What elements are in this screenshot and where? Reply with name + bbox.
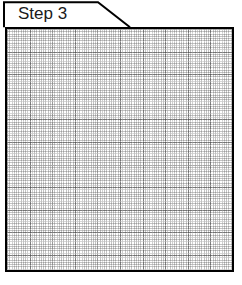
- graph-paper-grid: [7, 29, 232, 270]
- grid-panel-body: [5, 27, 234, 272]
- step-panel: Step 3: [0, 0, 242, 285]
- tab-label: Step 3: [18, 3, 98, 26]
- step-tab[interactable]: Step 3: [3, 1, 131, 28]
